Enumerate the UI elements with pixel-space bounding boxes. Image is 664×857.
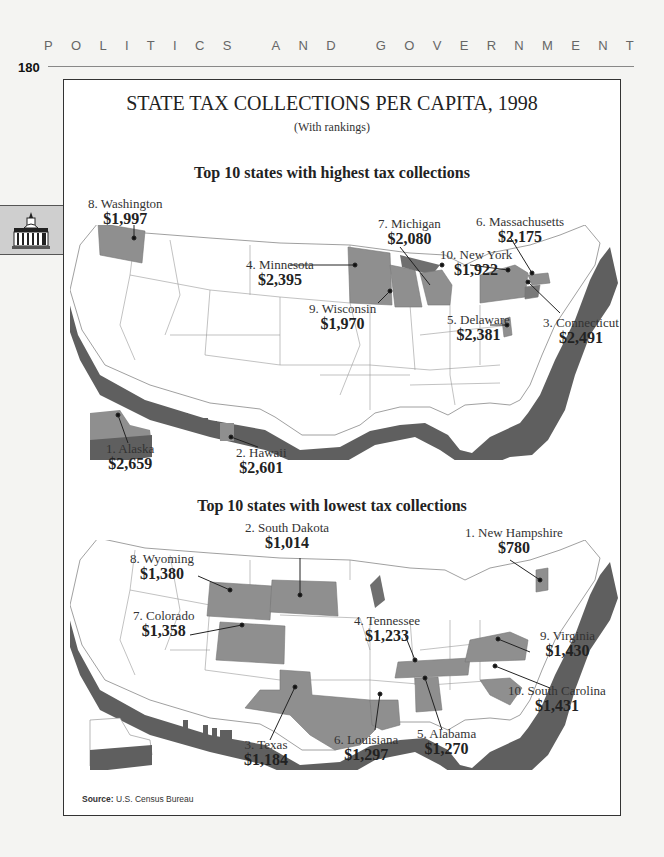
running-head-letter: I [173,38,177,53]
running-head-letter: O [404,38,414,53]
header-rule [48,66,634,67]
running-head-letter: M [542,38,553,53]
source-label: Source: [82,794,114,804]
page-number: 180 [18,60,40,75]
running-head-letter: O [71,38,81,53]
label-alabama: 5. Alabama $1,270 [417,727,476,757]
running-head-letter: D [326,38,335,53]
hawaii-island [203,418,208,432]
label-massachusetts: 6. Massachusetts $2,175 [476,215,564,245]
hawaii-island [220,730,232,748]
running-head-letter: I [125,38,129,53]
hawaii-island [212,421,217,435]
running-head-letter: T [147,38,155,53]
running-head-letter: S [223,38,232,53]
label-south-carolina: 10. South Carolina $1,431 [508,684,606,714]
state-alabama [415,677,442,712]
label-virginia: 9. Virginia $1,430 [540,629,595,659]
label-michigan: 7. Michigan $2,080 [378,217,441,247]
running-head-letter: T [626,38,634,53]
us-map-highest [70,225,620,460]
running-head-letter: N [514,38,523,53]
running-head-letter: N [299,38,308,53]
label-connecticut: 3. Connecticut $2,491 [543,316,619,346]
label-south-dakota: 2. South Dakota $1,014 [245,521,329,551]
capitol-building-icon [0,206,63,256]
source-text: U.S. Census Bureau [116,794,193,804]
label-wyoming: 8. Wyoming $1,380 [130,552,194,582]
label-wisconsin: 9. Wisconsin $1,970 [309,302,376,332]
label-new-york: 10. New York $1,922 [440,248,512,278]
figure-subtitle: (With rankings) [0,120,664,135]
label-alaska: 1. Alaska $2,659 [106,442,154,472]
label-minnesota: 4. Minnesota $2,395 [246,258,314,288]
running-head-letter: N [598,38,607,53]
label-tennessee: 4. Tennessee $1,233 [354,614,420,644]
state-louisiana [370,700,400,730]
hawaii-island [212,728,217,742]
running-head-letter: V [433,38,442,53]
section-heading-lowest: Top 10 states with lowest tax collection… [0,497,664,515]
label-texas: 3. Texas $1,184 [244,738,288,768]
chapter-tab [0,205,63,255]
running-head-letter: L [99,38,106,53]
label-washington: 8. Washington $1,997 [88,197,163,227]
label-delaware: 5. Delaware $2,381 [447,313,510,343]
label-new-hampshire: 1. New Hampshire $780 [465,526,563,556]
running-head-letter: G [376,38,386,53]
hawaii-island [203,725,208,739]
running-head-letter: E [571,38,580,53]
running-head-letter: R [487,38,496,53]
source-note: Source: U.S. Census Bureau [82,794,194,804]
state-south-dakota [270,580,338,616]
hawaii-island [183,413,188,428]
hawaii-island [183,720,188,735]
label-louisiana: 6. Louisiana $1,297 [334,733,398,763]
running-head-letter: E [460,38,469,53]
running-head: P O L I T I C S A N D G O V E R N M E N … [44,38,634,53]
running-head-letter: C [195,38,204,53]
state-wyoming [207,582,272,620]
section-heading-highest: Top 10 states with highest tax collectio… [0,164,664,182]
running-head-letter: P [44,38,53,53]
running-head-letter: A [272,38,281,53]
figure-title: STATE TAX COLLECTIONS PER CAPITA, 1998 [0,92,664,115]
label-colorado: 7. Colorado $1,358 [133,609,194,639]
label-hawaii: 2. Hawaii $2,601 [236,446,287,476]
